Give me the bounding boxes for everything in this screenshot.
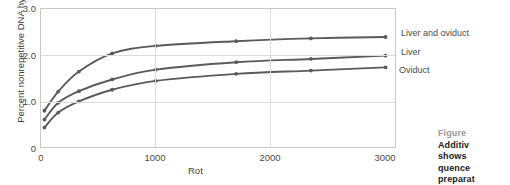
curves-layer — [41, 9, 397, 149]
series-1 — [43, 54, 388, 122]
caption-line-0: Additiv — [438, 140, 510, 152]
series-0 — [43, 35, 388, 113]
curve-line — [44, 37, 385, 111]
data-point — [43, 126, 47, 130]
data-point — [309, 37, 313, 41]
caption-line-3: preparat — [438, 174, 510, 185]
gridline-x-1000 — [155, 9, 156, 147]
data-point — [56, 90, 60, 94]
data-point — [110, 88, 114, 92]
data-point — [56, 111, 60, 115]
x-tick-label-3000: 3000 — [360, 153, 410, 163]
gridline-x-2000 — [270, 9, 271, 147]
x-tick-label-0: 0 — [16, 153, 66, 163]
data-point — [110, 78, 114, 82]
data-point — [309, 57, 313, 61]
chart-figure: Percent nonrepetitive DNA hybridized 3.0… — [0, 0, 510, 185]
y-tick-label-2: 2.0 — [2, 51, 36, 61]
data-point — [43, 118, 47, 122]
data-point — [234, 60, 238, 64]
caption-line-2: quence — [438, 163, 510, 175]
x-tick-label-2000: 2000 — [245, 153, 295, 163]
series-2 — [43, 65, 388, 129]
figure-caption: Figure Additiv shows quence preparat — [438, 128, 510, 185]
gridline-y-1 — [41, 102, 395, 103]
data-point — [77, 70, 81, 74]
data-point — [384, 35, 388, 39]
plot-area — [40, 8, 396, 148]
series-label-liver: Liver — [401, 48, 421, 57]
series-label-oviduct: Oviduct — [399, 66, 430, 75]
data-point — [309, 69, 313, 73]
y-tick-label-1: 1.0 — [2, 97, 36, 107]
caption-heading: Figure — [438, 128, 510, 140]
caption-line-1: shows — [438, 151, 510, 163]
data-point — [234, 72, 238, 76]
data-point — [384, 65, 388, 69]
x-axis-title: Rot — [188, 166, 203, 176]
data-point — [77, 89, 81, 93]
curve-line — [44, 67, 385, 127]
x-tick-label-1000: 1000 — [130, 153, 180, 163]
gridline-y-2 — [41, 55, 395, 56]
series-label-liver-and-oviduct: Liver and oviduct — [401, 29, 469, 38]
curve-line — [44, 56, 385, 120]
data-point — [234, 39, 238, 43]
data-point — [43, 109, 47, 113]
y-tick-label-3: 3.0 — [2, 4, 36, 14]
